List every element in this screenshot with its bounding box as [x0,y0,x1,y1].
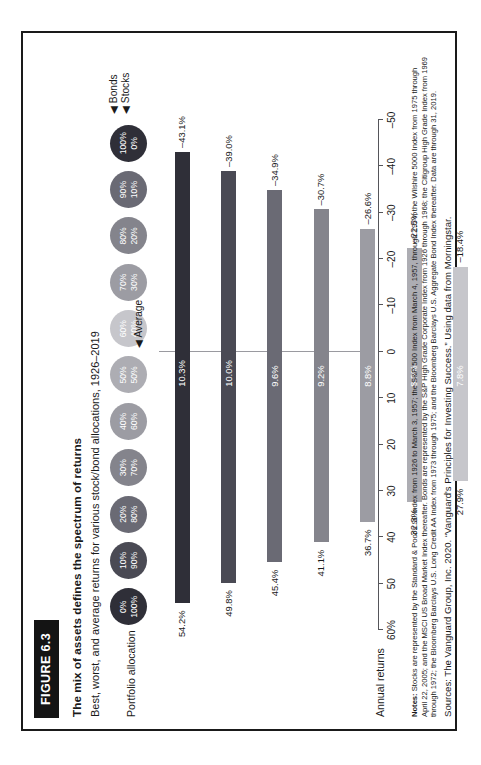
allocation-circle: 0%100% [110,588,147,625]
allocation-circle-row: 0%100%10%90%20%80%30%70%40%60%50%50%60%4… [110,120,150,630]
allocation-stocks-pct: 60% [129,413,140,430]
allocation-circle: 10%90% [110,542,147,579]
allocation-bonds-pct: 30% [118,459,129,476]
best-return-label: 36.7% [362,529,373,556]
allocation-bonds-pct: 50% [118,366,129,383]
axis-tick [378,397,383,398]
axis-tick [378,444,383,445]
average-return-label: 9.2% [315,365,326,386]
allocation-circle: 90%10% [110,171,147,208]
worst-return-label: –34.9% [269,154,280,186]
average-return-label: 9.6% [269,365,280,386]
axis-tick [378,629,383,630]
figure-body: FIGURE 6.3 The mix of assets defines the… [26,36,452,726]
allocation-stocks-pct: 20% [129,227,140,244]
axis-tick-label: 50 [386,578,397,589]
axis-tick [378,119,383,120]
average-return-label: 10.0% [223,360,234,387]
axis-tick-label: 20 [386,439,397,450]
rotated-figure-wrapper: FIGURE 6.3 The mix of assets defines the… [26,36,452,726]
axis-tick [378,583,383,584]
figure-page: FIGURE 6.3 The mix of assets defines the… [0,0,481,765]
average-marker-label: ◀ Average [133,300,144,348]
allocation-circle: 70%30% [110,264,147,301]
axis-tick-label: –40 [386,158,397,175]
axis-tick-label: –20 [386,251,397,268]
legend: ◀ Bonds ◀ Stocks [108,73,133,114]
axis-tick-label: –10 [386,297,397,314]
best-return-label: 45.4% [269,570,280,597]
best-return-label: 54.2% [176,611,187,638]
legend-item-bonds: ◀ Bonds [108,73,120,114]
allocation-circle: 40%60% [110,403,147,440]
best-return-label: 49.8% [223,590,234,617]
allocation-stocks-pct: 0% [129,137,140,149]
allocation-bonds-pct: 40% [118,413,129,430]
allocation-axis-label: Portfolio allocation [125,630,137,717]
allocation-stocks-pct: 90% [129,552,140,569]
allocation-circle: 80%20% [110,217,147,254]
figure-source: Sources: The Vanguard Group, Inc. 2020. … [442,217,453,717]
axis-tick-label: 10 [386,393,397,404]
best-return-label: 27.9% [454,489,465,516]
average-return-label: 10.3% [176,360,187,387]
value-axis: 60%50403020100–10–20–30–40–50 [378,120,379,630]
axis-tick [378,490,383,491]
allocation-bonds-pct: 60% [118,320,129,337]
worst-return-label: –39.0% [223,135,234,167]
worst-return-label: –26.6% [362,193,373,225]
best-return-label: 41.1% [315,550,326,577]
value-axis-title: Annual returns [374,648,386,717]
allocation-bonds-pct: 70% [118,274,129,291]
average-return-label: 8.8% [362,365,373,386]
allocation-circle: 50%50% [110,357,147,394]
plot-area: ◀ Average 54.2%–43.1%10.3%49.8%–39.0%10.… [159,120,374,630]
allocation-circle: 100%0% [110,125,147,162]
allocation-bonds-pct: 0% [118,601,129,613]
worst-return-label: –18.4% [454,231,465,263]
allocation-circle: 20%80% [110,496,147,533]
figure-title: The mix of assets defines the spectrum o… [70,438,83,717]
figure-tag: FIGURE 6.3 [34,620,59,718]
allocation-stocks-pct: 30% [129,274,140,291]
axis-tick [378,258,383,259]
axis-tick-label: –50 [386,112,397,129]
axis-tick-label: –30 [386,204,397,221]
allocation-bonds-pct: 20% [118,506,129,523]
axis-tick [378,304,383,305]
notes-text: Stocks are represented by the Standard &… [410,57,438,717]
allocation-bonds-pct: 100% [118,132,129,154]
allocation-stocks-pct: 50% [129,366,140,383]
axis-tick-label: 0 [386,349,397,355]
allocation-stocks-pct: 100% [129,596,140,618]
figure-frame: FIGURE 6.3 The mix of assets defines the… [21,31,457,731]
axis-tick-label: 30 [386,485,397,496]
axis-tick [378,351,383,352]
allocation-circle: 30%70% [110,449,147,486]
allocation-bonds-pct: 80% [118,227,129,244]
average-return-label: 7.8% [454,365,465,386]
axis-tick-label: 60% [386,620,397,640]
allocation-bonds-pct: 90% [118,181,129,198]
notes-label: Notes: [410,693,419,717]
allocation-bonds-pct: 10% [118,552,129,569]
axis-tick [378,536,383,537]
axis-tick [378,212,383,213]
allocation-stocks-pct: 70% [129,459,140,476]
axis-tick [378,165,383,166]
figure-notes: Notes: Stocks are represented by the Sta… [410,52,439,717]
allocation-stocks-pct: 10% [129,181,140,198]
worst-return-label: –30.7% [315,174,326,206]
figure-subtitle: Best, worst, and average returns for var… [89,331,101,717]
worst-return-label: –43.1% [176,116,187,148]
legend-item-stocks: ◀ Stocks [120,73,132,114]
axis-tick-label: 40 [386,532,397,543]
allocation-stocks-pct: 80% [129,506,140,523]
